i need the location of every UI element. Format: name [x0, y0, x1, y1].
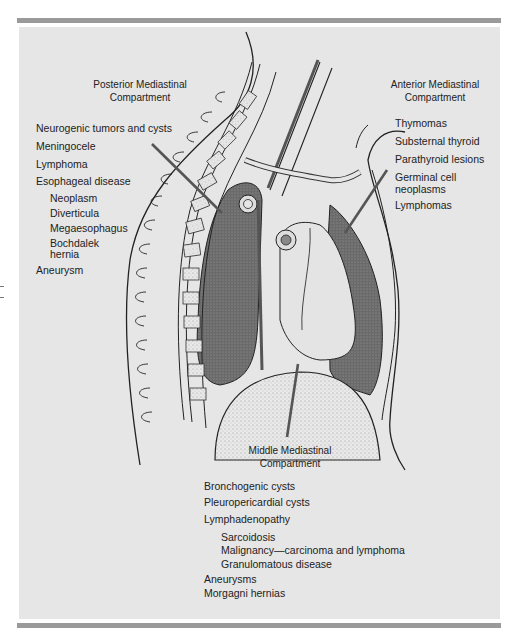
posterior-compartment-title: Posterior Mediastinal Compartment: [85, 78, 195, 104]
title-line: Posterior Mediastinal: [85, 78, 195, 91]
list-item: Substernal thyroid: [395, 135, 480, 147]
list-item: Lymphomas: [395, 199, 452, 211]
anterior-compartment-title: Anterior Mediastinal Compartment: [380, 78, 490, 104]
list-item: Aneurysm: [36, 264, 83, 276]
list-item: Thymomas: [395, 117, 447, 129]
title-line: Middle Mediastinal: [230, 444, 350, 457]
list-item: Morgagni hernias: [204, 587, 285, 599]
list-item: Neoplasm: [50, 192, 97, 204]
bottom-rule: [17, 623, 501, 628]
title-line: Compartment: [230, 457, 350, 470]
list-item: Granulomatous disease: [221, 558, 332, 570]
list-item: Megaesophagus: [50, 222, 128, 234]
list-item: Sarcoidosis: [221, 531, 275, 543]
list-item: Diverticula: [50, 207, 99, 219]
list-item: Bronchogenic cysts: [204, 480, 295, 492]
list-item: Malignancy—carcinoma and lymphoma: [221, 544, 405, 556]
list-item: Lymphadenopathy: [204, 513, 290, 525]
title-line: Anterior Mediastinal: [380, 78, 490, 91]
list-item: Lymphoma: [36, 158, 88, 170]
list-item: Meningocele: [36, 140, 96, 152]
middle-compartment-title: Middle Mediastinal Compartment: [230, 444, 350, 470]
list-item: Germinal cell: [395, 171, 456, 183]
list-item: neoplasms: [395, 183, 446, 195]
clavicle: [245, 160, 360, 180]
list-item: Neurogenic tumors and cysts: [36, 122, 172, 134]
title-line: Compartment: [85, 91, 195, 104]
list-item: Aneurysms: [204, 573, 257, 585]
list-item: Pleuropericardial cysts: [204, 496, 310, 508]
posterior-lung: [197, 183, 262, 385]
list-item: Parathyroid lesions: [395, 153, 484, 165]
list-item: hernia: [50, 248, 79, 260]
thymus-leader: [356, 125, 368, 148]
title-line: Compartment: [380, 91, 490, 104]
list-item: Esophageal disease: [36, 175, 131, 187]
